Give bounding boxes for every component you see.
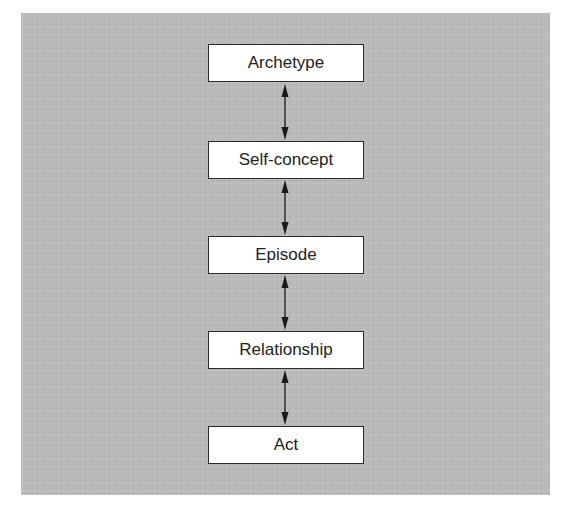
- node-label: Self-concept: [239, 150, 334, 170]
- bidirectional-arrow-icon: [275, 83, 295, 141]
- node-label: Archetype: [248, 53, 325, 73]
- node-relationship: Relationship: [208, 331, 364, 369]
- bidirectional-arrow-icon: [275, 179, 295, 236]
- node-archetype: Archetype: [208, 44, 364, 82]
- node-label: Episode: [255, 245, 316, 265]
- node-act: Act: [208, 426, 364, 464]
- bidirectional-arrow-icon: [275, 369, 295, 426]
- bidirectional-arrow-icon: [275, 274, 295, 331]
- node-label: Relationship: [239, 340, 333, 360]
- node-label: Act: [274, 435, 299, 455]
- node-episode: Episode: [208, 236, 364, 274]
- node-self-concept: Self-concept: [208, 141, 364, 179]
